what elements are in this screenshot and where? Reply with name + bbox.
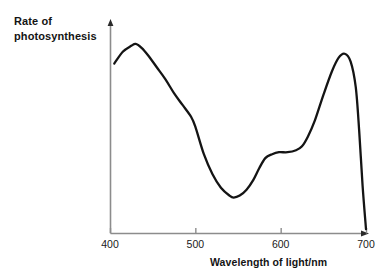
y-axis-arrowhead [108,19,114,26]
y-axis [108,19,114,233]
data-curve-line [114,44,366,229]
x-axis-arrowhead [361,230,369,236]
plot-area [0,0,391,277]
photosynthesis-action-spectrum-chart: Rate of photosynthesis 400500600700 Wave… [0,0,391,277]
x-axis-tick-marks [111,228,367,234]
x-axis-title: Wavelength of light/nm [210,256,327,268]
x-axis [111,230,370,236]
x-axis-tick-label-700: 700 [357,238,375,250]
x-axis-tick-label-400: 400 [101,238,119,250]
x-axis-tick-label-600: 600 [272,238,290,250]
x-axis-tick-label-500: 500 [187,238,205,250]
